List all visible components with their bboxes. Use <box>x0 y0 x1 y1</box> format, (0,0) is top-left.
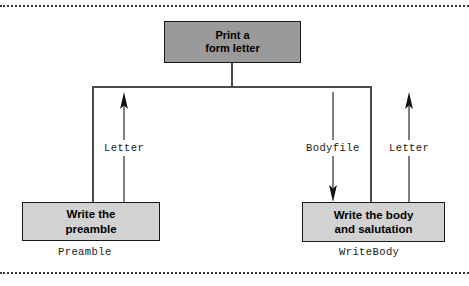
page-rule-bottom-divider <box>0 272 469 274</box>
process-box-writebody-label: Write the body and salutation <box>334 208 414 236</box>
flow-label-bodyfile: Bodyfile <box>303 140 363 156</box>
process-box-preamble-label: Write the preamble <box>65 207 116 235</box>
diagram-canvas: Letter Bodyfile Letter Print a form lett… <box>0 0 469 286</box>
process-box-root-label: Print a form letter <box>205 29 259 56</box>
caption-writebody: WriteBody <box>339 246 399 258</box>
connector-branch-right <box>370 86 372 203</box>
connector-root-stem <box>231 63 233 87</box>
flow-label-letter-right: Letter <box>386 140 432 156</box>
caption-preamble: Preamble <box>58 246 112 258</box>
page-rule-top-divider <box>0 5 469 7</box>
process-box-write-body-salutation[interactable]: Write the body and salutation <box>302 202 445 242</box>
process-box-write-preamble[interactable]: Write the preamble <box>22 202 160 241</box>
connector-branch-left <box>92 86 94 203</box>
process-box-print-form-letter[interactable]: Print a form letter <box>164 21 301 63</box>
connector-horizontal-bus <box>92 86 371 88</box>
flow-label-letter-left: Letter <box>101 140 147 156</box>
